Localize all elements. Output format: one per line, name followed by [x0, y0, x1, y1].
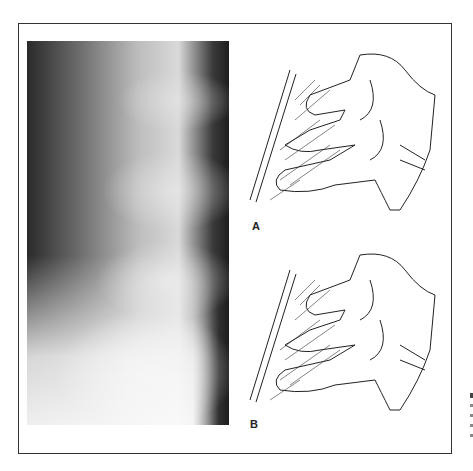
xray-image [27, 41, 229, 425]
vertebrae-drawing-a [240, 50, 440, 215]
panel-label-b: B [250, 418, 258, 430]
panel-label-a: A [252, 220, 260, 232]
vertebrae-drawing-b [240, 250, 440, 415]
